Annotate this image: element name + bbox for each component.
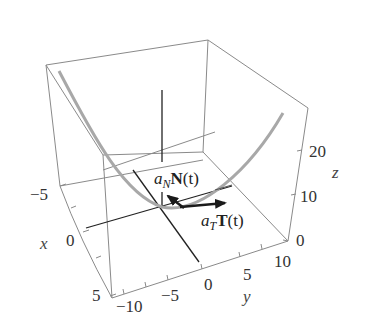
x-tick-label: 5: [92, 286, 101, 305]
3d-plot: aNN(t) aTT(t) −5 0 5 x −10 −5 0 5 10 y 0…: [0, 0, 366, 333]
z-axis-label: z: [331, 163, 339, 182]
normal-vector-label: aNN(t): [154, 169, 199, 191]
y-axis-label: y: [241, 287, 251, 306]
z-tick-label: 10: [300, 187, 317, 206]
y-tick-label: 5: [243, 265, 252, 284]
bounding-box: [0, 0, 308, 298]
y-tick-label: −5: [161, 286, 179, 305]
y-tick-label: −10: [116, 297, 143, 316]
x-axis-label: x: [39, 234, 48, 253]
z-tick-label: 20: [309, 142, 326, 161]
tangent-vector-label: aTT(t): [201, 211, 244, 233]
y-tick-label: 10: [274, 252, 291, 271]
y-tick-label: 0: [204, 275, 213, 294]
x-tick-label: −5: [30, 185, 48, 204]
z-tick-label: 0: [296, 231, 305, 250]
x-tick-label: 0: [66, 231, 75, 250]
